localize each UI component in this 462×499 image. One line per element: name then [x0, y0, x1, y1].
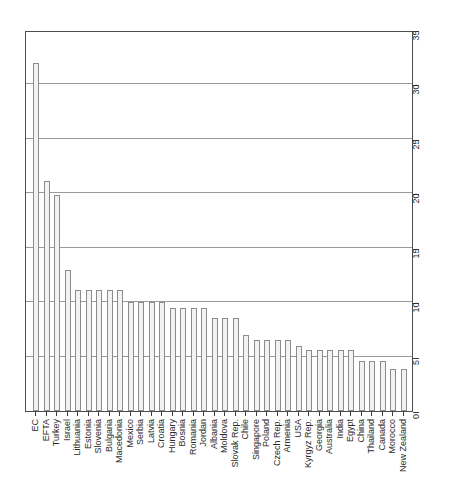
x-axis-label-wrap: Mexico — [130, 390, 139, 419]
x-axis-label-wrap: Estonia — [88, 389, 97, 419]
bar — [65, 270, 71, 412]
x-axis-label-wrap: Slovenia — [98, 384, 107, 419]
x-axis-label-wrap: Israel — [67, 397, 76, 419]
x-axis-label: Canada — [377, 419, 386, 451]
bar — [44, 181, 50, 411]
x-axis-label-wrap: Albania — [214, 389, 223, 419]
x-axis-label: Turkey — [52, 419, 61, 446]
bar — [33, 63, 39, 411]
x-axis-label-wrap: Egypt — [350, 396, 359, 419]
x-axis-label-wrap: Hungary — [172, 385, 181, 419]
y-axis: 05101520253035 — [413, 31, 461, 412]
bar — [54, 195, 60, 411]
x-axis-label: India — [335, 419, 344, 439]
y-axis-label: 10 — [412, 303, 421, 313]
x-axis-label: Israel — [62, 419, 71, 441]
x-axis-label-wrap: Lithuania — [77, 382, 86, 419]
y-axis-tick — [413, 358, 419, 359]
x-axis-label: Macedonia — [115, 419, 124, 463]
y-axis-label: 35 — [412, 30, 421, 40]
x-axis-label-wrap: Latvia — [151, 395, 160, 419]
bars-layer — [26, 32, 412, 411]
x-axis-label: Bosnia — [178, 419, 187, 447]
x-axis-label-wrap: Chile — [245, 398, 254, 419]
bar-chart: 05101520253035 ECEFTATurkeyIsraelLithuan… — [0, 0, 462, 499]
x-axis-label-wrap: Poland — [266, 391, 275, 419]
x-axis-label-wrap: Bosnia — [182, 391, 191, 419]
x-axis-label: Morocco — [388, 419, 397, 454]
y-axis-label: 15 — [412, 248, 421, 258]
x-axis-label-wrap: EFTA — [46, 397, 55, 419]
x-axis-label: Jordan — [199, 419, 208, 447]
x-axis-label-wrap: Serbia — [140, 393, 149, 419]
y-axis-label: 30 — [412, 85, 421, 95]
x-axis-label: Thailand — [367, 419, 376, 454]
x-axis-label-wrap: Romania — [193, 383, 202, 419]
x-axis-label: USA — [293, 419, 302, 438]
y-axis-tick — [413, 412, 419, 413]
x-axis-label: Georgia — [314, 419, 323, 451]
x-axis-label-wrap: Kyrgyz Rep. — [308, 370, 317, 419]
x-axis-label-wrap: Morocco — [392, 384, 401, 419]
x-axis-label-wrap: Croatia — [161, 390, 170, 419]
x-axis-label: Hungary — [167, 419, 176, 453]
x-axis-label: Bulgaria — [104, 419, 113, 452]
x-axis-label: Croatia — [157, 419, 166, 448]
x-axis-label: EC — [31, 419, 40, 432]
y-axis-label: 20 — [412, 194, 421, 204]
x-axis-label-wrap: Czech Rep. — [277, 372, 286, 419]
x-axis-label: Latvia — [146, 419, 155, 443]
x-axis-label: Albania — [209, 419, 218, 449]
x-axis-label: Czech Rep. — [272, 419, 281, 466]
x-axis-label-wrap: New Zealand — [403, 366, 412, 419]
x-axis-label: Singapore — [251, 419, 260, 460]
y-axis-label: 0 — [412, 414, 421, 419]
x-axis-label: Poland — [262, 419, 271, 447]
x-axis-label-wrap: Canada — [382, 387, 391, 419]
x-axis-label-wrap: Singapore — [256, 378, 265, 419]
x-axis: ECEFTATurkeyIsraelLithuaniaEstoniaSloven… — [25, 412, 413, 499]
x-axis-label: Estonia — [83, 419, 92, 449]
x-axis-label: Slovenia — [94, 419, 103, 454]
x-axis-label-wrap: Thailand — [371, 384, 380, 419]
x-axis-label: Egypt — [346, 419, 355, 442]
x-axis-label-wrap: Bulgaria — [109, 386, 118, 419]
y-axis-label: 25 — [412, 139, 421, 149]
x-axis-label: Serbia — [136, 419, 145, 445]
x-axis-label-wrap: EC — [35, 406, 44, 419]
x-axis-label: Chile — [241, 419, 250, 440]
x-axis-label-wrap: Armenia — [287, 385, 296, 419]
x-axis-label-wrap: Macedonia — [119, 375, 128, 419]
x-axis-label-wrap: Moldova — [224, 385, 233, 419]
x-axis-label: Slovak Rep. — [230, 419, 239, 468]
x-axis-label: Mexico — [125, 419, 134, 448]
x-axis-label: Australia — [325, 419, 334, 454]
x-axis-label-wrap: USA — [298, 400, 307, 419]
x-axis-label-wrap: Jordan — [203, 391, 212, 419]
x-axis-label-wrap: Slovak Rep. — [235, 370, 244, 419]
plot-area — [25, 31, 413, 412]
x-axis-label-wrap: Turkey — [56, 392, 65, 419]
x-axis-label: Armenia — [283, 419, 292, 453]
x-axis-label-wrap: Georgia — [319, 387, 328, 419]
x-axis-label: Moldova — [220, 419, 229, 453]
x-axis-label-wrap: India — [340, 399, 349, 419]
y-axis-label: 5 — [412, 360, 421, 365]
x-axis-label: New Zealand — [398, 419, 407, 472]
x-axis-label: Romania — [188, 419, 197, 455]
x-axis-label-wrap: Australia — [329, 384, 338, 419]
x-axis-label: Lithuania — [73, 419, 82, 456]
x-axis-label: Kyrgyz Rep. — [304, 419, 313, 468]
x-axis-label: EFTA — [41, 419, 50, 441]
x-axis-label-wrap: China — [361, 395, 370, 419]
x-axis-label: China — [356, 419, 365, 443]
